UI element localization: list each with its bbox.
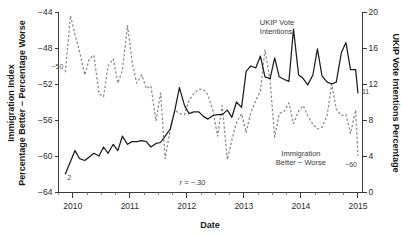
immigration-start-value: −50: [51, 63, 63, 70]
x-axis-tick-labels: 201020112012201320142015: [63, 201, 367, 211]
y-right-tick-label: 4: [369, 151, 374, 161]
chart-figure: −44−48−52−56−60−64 048121620 20102011201…: [0, 0, 402, 235]
annotation-immigration-label-line2: Better − Worse: [276, 158, 326, 167]
x-axis-title: Date: [200, 220, 220, 230]
chart-svg: −44−48−52−56−60−64 048121620 20102011201…: [0, 0, 402, 235]
y-right-tick-label: 16: [369, 43, 379, 53]
y-axis-right-tick-labels: 048121620: [369, 7, 379, 197]
annotation-ukip-label-line2: Intentions: [260, 27, 293, 36]
x-major-tick-label: 2013: [234, 201, 253, 211]
y-left-tick-label: −64: [38, 187, 53, 197]
annotation-immigration-label-line1: Immigration: [281, 149, 320, 158]
y-left-tick-label: −48: [38, 43, 53, 53]
y-axis-left-tick-labels: −44−48−52−56−60−64: [38, 7, 53, 197]
y-left-tick-label: −44: [38, 7, 53, 17]
y-right-tick-label: 0: [369, 187, 374, 197]
x-major-tick-label: 2012: [177, 201, 196, 211]
y-left-tick-label: −52: [38, 79, 53, 89]
y-left-tick-label: −56: [38, 115, 53, 125]
y-axis-left-title-line1: Immigration Index: [6, 64, 16, 142]
y-axis-left-ticks: [55, 12, 59, 192]
x-major-tick-label: 2010: [63, 201, 82, 211]
y-right-tick-label: 8: [369, 115, 374, 125]
series-line-immigration-better-worse: [65, 16, 358, 160]
y-left-tick-label: −60: [38, 151, 53, 161]
y-axis-left-title-line2: Percentage Better − Percentage Worse: [17, 20, 27, 186]
y-axis-right-ticks: [363, 12, 367, 192]
x-major-tick-label: 2014: [291, 201, 310, 211]
y-right-tick-label: 20: [369, 7, 379, 17]
x-major-tick-label: 2015: [348, 201, 367, 211]
immigration-end-value: −60: [345, 161, 357, 168]
y-right-tick-label: 12: [369, 79, 379, 89]
ukip-start-value: 2: [67, 174, 71, 181]
x-major-tick-label: 2011: [121, 201, 140, 211]
y-axis-right-title: UKIP Vote Intentions Percentage: [391, 33, 401, 172]
ukip-end-value: 11: [362, 88, 369, 95]
annotation-ukip-label-line1: UKIP Vote: [260, 18, 294, 27]
annotation-correlation: r = −.30: [180, 178, 206, 187]
